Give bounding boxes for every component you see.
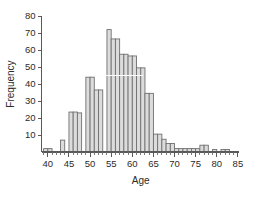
y-axis-tick-label: 50 [25,61,36,72]
histogram-figure: 1020304050607080 40455055606570758085 Ag… [0,0,253,197]
histogram-bar [132,56,136,152]
histogram-bar [86,77,90,152]
histogram-bar [94,90,98,152]
y-axis-tick-label: 10 [25,129,36,140]
histogram-bar [149,93,153,152]
histogram-bar [99,90,103,152]
x-axis-tick-label: 40 [43,158,54,169]
histogram-bar [170,144,174,153]
y-axis-tick-label: 40 [25,78,36,89]
y-axis-tick-label: 20 [25,112,36,123]
histogram-bar [111,39,115,152]
y-axis-tick-label: 80 [25,10,36,21]
histogram-bar [120,54,124,152]
y-axis-tick-label: 30 [25,95,36,106]
histogram-plot: 1020304050607080 40455055606570758085 Ag… [0,0,253,197]
y-axis-tick-label: 60 [25,44,36,55]
histogram-bar [166,144,170,153]
histogram-bar [115,39,119,152]
histogram-bar [162,139,166,152]
x-axis-title: Age [132,175,150,186]
histogram-bar [77,113,81,152]
y-axis-tick-label: 70 [25,27,36,38]
x-axis-tick-label: 80 [211,158,222,169]
histogram-bar [61,140,65,152]
y-axis-title: Frequency [5,60,16,107]
histogram-bar [153,134,157,152]
x-axis-tick-label: 65 [148,158,159,169]
histogram-bar [128,56,132,152]
histogram-bar [69,112,73,152]
histogram-bar [145,93,149,152]
histogram-bar [73,112,77,152]
x-axis-tick-label: 50 [85,158,96,169]
histogram-bar [124,54,128,152]
histogram-bars [44,30,230,152]
histogram-bar [204,145,208,152]
x-axis: 40455055606570758085 [42,152,244,169]
y-axis: 1020304050607080 [25,10,42,152]
histogram-bar [90,77,94,152]
histogram-bar [200,145,204,152]
histogram-bar [141,68,145,152]
histogram-bar [107,30,111,152]
x-axis-tick-label: 55 [106,158,117,169]
histogram-bar [137,68,141,152]
x-axis-tick-label: 85 [233,158,244,169]
x-axis-tick-label: 60 [127,158,138,169]
x-axis-tick-label: 70 [169,158,180,169]
histogram-bar [158,134,162,152]
x-axis-tick-label: 45 [64,158,75,169]
x-axis-tick-label: 75 [190,158,201,169]
